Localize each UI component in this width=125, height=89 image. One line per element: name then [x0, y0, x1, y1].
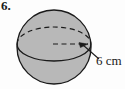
sphere-figure: 6. 6 cm: [0, 0, 125, 89]
sphere-outline-circle: [17, 10, 91, 84]
sphere-diagram-svg: [0, 0, 125, 89]
dimension-label-6cm: 6 cm: [96, 54, 122, 68]
